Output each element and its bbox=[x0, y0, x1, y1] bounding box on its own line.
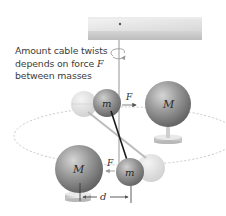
ceiling-plate bbox=[88, 17, 202, 40]
force-label-upper: F bbox=[125, 92, 133, 102]
large-mass-label-lower: M bbox=[72, 163, 85, 176]
large-mass-upper-right: M bbox=[145, 81, 191, 144]
large-mass-label-upper: M bbox=[162, 98, 175, 111]
caption-line-3: between masses bbox=[15, 70, 108, 83]
caption-force-variable: F bbox=[97, 58, 103, 69]
distance-label: d bbox=[100, 191, 106, 202]
large-mass-lower-left: M bbox=[55, 145, 103, 202]
caption-line-2-text: depends on force bbox=[15, 58, 97, 69]
torsion-balance-diagram: M m F M m F d bbox=[0, 0, 226, 216]
ghost-rod bbox=[88, 112, 146, 158]
small-mass-upper: m bbox=[93, 89, 121, 117]
small-mass-label-lower: m bbox=[125, 167, 134, 178]
twist-indicator bbox=[111, 49, 125, 59]
small-mass-lower: m bbox=[116, 158, 144, 186]
small-mass-label-upper: m bbox=[102, 98, 111, 109]
caption-line-1: Amount cable twists bbox=[15, 45, 108, 58]
caption-line-2: depends on force F bbox=[15, 58, 108, 71]
force-label-lower: F bbox=[106, 158, 114, 168]
force-arrow-upper: F bbox=[122, 92, 136, 105]
caption: Amount cable twists depends on force F b… bbox=[15, 45, 108, 83]
